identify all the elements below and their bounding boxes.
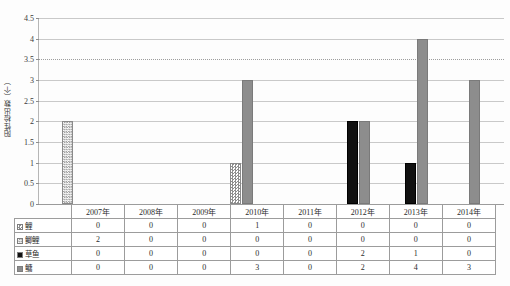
table-row: 鳙00030243	[15, 261, 496, 275]
bar-group	[329, 18, 387, 204]
table-cell: 0	[178, 247, 231, 261]
y-axis-tick: 1	[30, 158, 34, 167]
chart-plot-area: 阳性检出数（个） 00.511.522.533.544.5	[0, 0, 510, 205]
y-axis-tick: 4	[30, 34, 34, 43]
bar-group	[96, 18, 154, 204]
bar-group	[213, 18, 271, 204]
table-header-cell: 2009年	[178, 205, 231, 219]
y-axis-tick: 0.5	[24, 179, 34, 188]
table-cell: 3	[442, 261, 495, 275]
table-cell: 0	[442, 233, 495, 247]
y-axis-tick: 2.5	[24, 96, 34, 105]
table-header-cell: 2008年	[125, 205, 178, 219]
bar-series-container	[38, 18, 504, 204]
table-header-cell: 2014年	[442, 205, 495, 219]
table-cell: 0	[231, 233, 284, 247]
y-axis-tick: 1.5	[24, 138, 34, 147]
table-cell: 0	[125, 233, 178, 247]
table-cell: 0	[125, 219, 178, 233]
table-cell: 0	[284, 233, 336, 247]
bar	[469, 80, 480, 204]
table-cell: 1	[389, 247, 442, 261]
legend-label-cell: 鲤	[15, 219, 72, 233]
table-row: 草鱼00000210	[15, 247, 496, 261]
bar-group	[155, 18, 213, 204]
y-axis-tick: 2	[30, 117, 34, 126]
legend-swatch-icon	[17, 252, 23, 258]
table-cell: 0	[125, 261, 178, 275]
table-cell: 0	[442, 247, 495, 261]
table-cell: 0	[178, 219, 231, 233]
table-cell: 0	[336, 219, 389, 233]
table-row: 鲫鲤20000000	[15, 233, 496, 247]
bar-group	[446, 18, 504, 204]
bar	[347, 121, 358, 204]
table-cell: 0	[125, 247, 178, 261]
data-table: 2007年2008年2009年2010年2011年2012年2013年2014年…	[14, 204, 496, 275]
table-cell: 0	[284, 247, 336, 261]
bar-group	[271, 18, 329, 204]
table-cell: 4	[389, 261, 442, 275]
legend-swatch-icon	[17, 238, 23, 244]
table-row: 鲤00010000	[15, 219, 496, 233]
legend-label: 鲤	[25, 222, 32, 231]
table-cell: 0	[231, 247, 284, 261]
bar	[242, 80, 253, 204]
legend-swatch-icon	[17, 266, 23, 272]
table-cell: 2	[72, 233, 125, 247]
table-cell: 0	[336, 233, 389, 247]
table-body: 鲤00010000鲫鲤20000000草鱼00000210鳙00030243	[15, 219, 496, 275]
table-header-cell: 2010年	[231, 205, 284, 219]
y-axis-tick: 4.5	[24, 14, 34, 23]
y-axis-tick: 3	[30, 76, 34, 85]
table-header-cell: 2011年	[284, 205, 336, 219]
table-header-cell: 2012年	[336, 205, 389, 219]
table-cell: 0	[72, 247, 125, 261]
table-cell: 0	[389, 219, 442, 233]
y-axis-tick: 3.5	[24, 55, 34, 64]
bar	[417, 39, 428, 204]
legend-label-cell: 鲫鲤	[15, 233, 72, 247]
table-header-row: 2007年2008年2009年2010年2011年2012年2013年2014年	[15, 205, 496, 219]
legend-label-cell: 鳙	[15, 261, 72, 275]
table-header-cell: 2013年	[389, 205, 442, 219]
legend-label: 鲫鲤	[25, 236, 39, 245]
table-cell: 0	[178, 261, 231, 275]
table-cell: 0	[284, 261, 336, 275]
table-cell: 2	[336, 247, 389, 261]
table-cell: 2	[336, 261, 389, 275]
table-cell: 1	[231, 219, 284, 233]
table-cell: 3	[231, 261, 284, 275]
legend-label: 草鱼	[25, 250, 39, 259]
bar	[359, 121, 370, 204]
bar-group	[38, 18, 96, 204]
table-corner-cell	[15, 205, 72, 219]
bar	[62, 121, 73, 204]
legend-swatch-icon	[17, 224, 23, 230]
table-cell: 0	[389, 233, 442, 247]
y-axis-title: 阳性检出数（个）	[1, 52, 14, 162]
bar-group	[388, 18, 446, 204]
y-axis-tick-labels: 00.511.522.533.544.5	[14, 18, 36, 204]
table-cell: 0	[284, 219, 336, 233]
table-cell: 0	[72, 219, 125, 233]
legend-label-cell: 草鱼	[15, 247, 72, 261]
bar	[405, 163, 416, 204]
table-cell: 0	[442, 219, 495, 233]
legend-label: 鳙	[25, 264, 32, 273]
chart-page: 阳性检出数（个） 00.511.522.533.544.5 2007年2008年…	[0, 0, 510, 286]
bar	[230, 163, 241, 204]
table-cell: 0	[72, 261, 125, 275]
table-header-cell: 2007年	[72, 205, 125, 219]
table-cell: 0	[178, 233, 231, 247]
